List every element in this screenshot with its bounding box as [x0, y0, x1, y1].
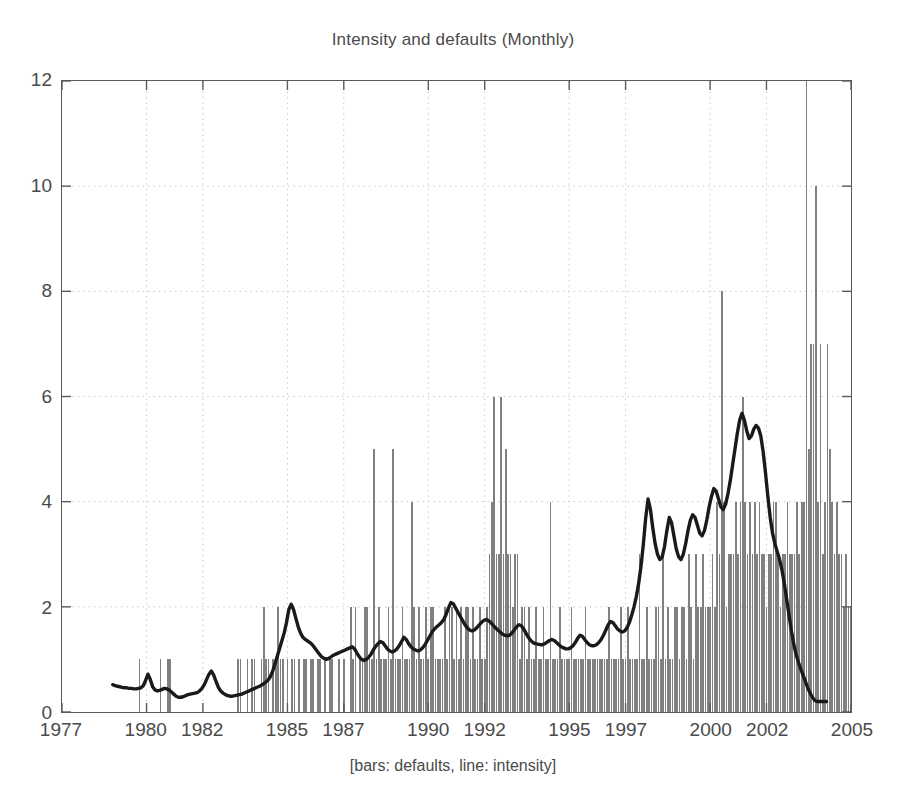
x-tick-label: 1990 [407, 719, 449, 741]
x-tick-label: 2002 [746, 719, 788, 741]
x-tick-label: 1985 [266, 719, 308, 741]
y-tick-label: 4 [6, 491, 52, 513]
y-tick-label: 8 [6, 280, 52, 302]
y-tick-label: 6 [6, 386, 52, 408]
x-tick-label: 1995 [548, 719, 590, 741]
x-tick-label: 2000 [690, 719, 732, 741]
plot-area [61, 80, 852, 713]
y-axis-tick-labels: 024681012 [0, 0, 52, 809]
x-tick-label: 1977 [40, 719, 82, 741]
x-axis-label: [bars: defaults, line: intensity] [0, 757, 906, 775]
y-tick-label: 12 [6, 69, 52, 91]
y-tick-label: 2 [6, 597, 52, 619]
y-tick-label: 10 [6, 175, 52, 197]
x-tick-label: 1982 [181, 719, 223, 741]
x-tick-label: 2005 [831, 719, 873, 741]
x-tick-label: 1980 [125, 719, 167, 741]
x-tick-label: 1992 [464, 719, 506, 741]
chart-svg [62, 81, 851, 712]
x-axis-tick-labels: 1977198019821985198719901992199519972000… [0, 719, 906, 747]
x-tick-label: 1997 [605, 719, 647, 741]
chart-figure: Intensity and defaults (Monthly) 0246810… [0, 0, 906, 809]
chart-title: Intensity and defaults (Monthly) [0, 30, 906, 50]
plot-canvas [62, 81, 851, 712]
x-tick-label: 1987 [322, 719, 364, 741]
